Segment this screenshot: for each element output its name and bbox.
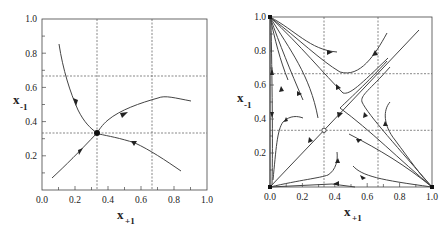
right-fixed-point-top-left <box>268 15 272 19</box>
right-xtick-0: 0.0 <box>264 192 276 202</box>
arrow-icon <box>337 112 343 118</box>
left-ytick-2: 0.6 <box>25 83 37 93</box>
left-ytick-0: 0.2 <box>25 151 37 161</box>
left-fixed-point <box>94 130 100 136</box>
right-xtick-4: 0.8 <box>394 192 406 202</box>
left-ytick-3: 0.8 <box>25 49 37 59</box>
right-trajectories <box>268 15 434 189</box>
arrow-icon <box>78 148 83 155</box>
right-xlabel: x <box>344 204 351 219</box>
left-xtick-5: 1.0 <box>201 195 213 205</box>
right-xtick-2: 0.4 <box>329 192 341 202</box>
right-fixed-point-origin <box>268 185 272 189</box>
right-fixed-point-interior <box>322 128 326 132</box>
left-xtick-0: 0.0 <box>36 195 48 205</box>
arrow-icon <box>363 112 368 118</box>
figure: 0.0 0.2 0.4 0.6 0.8 1.0 0.2 0.4 0.6 0.8 … <box>0 0 446 231</box>
left-ytick-1: 0.4 <box>25 117 37 127</box>
left-xtick-3: 0.6 <box>135 195 147 205</box>
right-xtick-5: 1.0 <box>426 192 438 202</box>
arrow-icon <box>356 139 362 143</box>
left-xlabel-sub: +1 <box>125 216 135 226</box>
left-traj-lower-right <box>99 134 181 171</box>
left-xtick-1: 0.2 <box>69 195 81 205</box>
right-fixed-point-bottom-right <box>430 185 434 189</box>
arrow-icon <box>120 112 128 118</box>
right-traj-lower-1 <box>270 152 337 187</box>
right-xtick-3: 0.6 <box>361 192 373 202</box>
right-traj-right-4 <box>385 102 432 187</box>
arrow-icon <box>279 86 284 92</box>
left-xlabel: x <box>117 207 124 222</box>
right-ytick-0: 0.2 <box>254 148 266 158</box>
right-ytick-2: 0.6 <box>254 80 266 90</box>
right-ytick-3: 0.8 <box>254 46 266 56</box>
arrow-icon <box>372 50 378 56</box>
right-ylabel-sub: -1 <box>244 100 252 110</box>
right-traj-right-3 <box>349 134 432 187</box>
left-ylabel: x <box>13 92 20 107</box>
left-ylabel-sub: -1 <box>20 102 28 112</box>
right-plot: 0.0 0.2 0.4 0.6 0.8 1.0 0.2 0.4 0.6 0.8 … <box>237 12 438 223</box>
arrow-icon <box>270 68 274 75</box>
left-traj-upper-left <box>59 44 97 133</box>
left-ytick-4: 1.0 <box>25 14 37 24</box>
left-xtick-4: 0.8 <box>168 195 180 205</box>
left-plot: 0.0 0.2 0.4 0.6 0.8 1.0 0.2 0.4 0.6 0.8 … <box>13 14 213 226</box>
right-ytick-4: 1.0 <box>254 12 266 22</box>
right-xtick-1: 0.2 <box>296 192 308 202</box>
right-traj-upper-1 <box>270 17 337 52</box>
right-ytick-1: 0.4 <box>254 114 266 124</box>
arrow-icon <box>333 181 339 186</box>
arrow-icon <box>360 175 366 180</box>
left-trajectories <box>52 44 191 178</box>
right-traj-upper-4 <box>270 17 303 100</box>
left-xtick-2: 0.4 <box>102 195 114 205</box>
right-xlabel-sub: +1 <box>352 213 362 223</box>
left-traj-upper-right <box>97 97 191 133</box>
right-traj-right-1 <box>362 67 432 187</box>
arrow-icon <box>284 117 288 122</box>
arrow-icon <box>270 112 274 118</box>
right-ylabel: x <box>237 90 244 105</box>
left-traj-lower-left <box>52 133 97 178</box>
right-traj-left-curve <box>273 117 303 180</box>
